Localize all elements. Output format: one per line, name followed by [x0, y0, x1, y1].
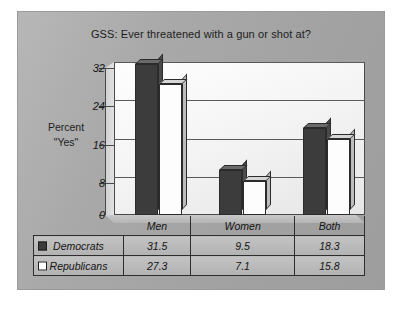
- legend-item-democrats: Democrats: [34, 236, 124, 256]
- table-row-categories: MenWomenBoth: [34, 216, 365, 236]
- y-axis-label-line1: Percent: [30, 120, 102, 135]
- category-label-women: Women: [191, 216, 294, 236]
- bar-face: [159, 84, 182, 215]
- bar-face: [135, 64, 158, 215]
- table-row: Republicans27.37.115.8: [34, 256, 365, 276]
- table-cell-republicans-men: 27.3: [124, 256, 191, 276]
- chart-screenshot: GSS: Ever threatened with a gun or shot …: [0, 0, 405, 310]
- bar-republicans-men: [159, 84, 182, 215]
- bar-side: [350, 129, 355, 210]
- bar-side: [182, 74, 187, 210]
- filled-square-icon: [38, 241, 47, 250]
- category-label-both: Both: [294, 216, 364, 236]
- table-cell-democrats-both: 18.3: [294, 236, 364, 256]
- y-axis-label: Percent "Yes": [30, 120, 102, 150]
- chart-title: GSS: Ever threatened with a gun or shot …: [18, 28, 384, 40]
- y-tick-mark-24: [99, 106, 105, 107]
- bar-democrats-men: [135, 64, 158, 215]
- table-row: Democrats31.59.518.3: [34, 236, 365, 256]
- bar-face: [243, 181, 266, 215]
- bar-republicans-both: [327, 139, 350, 215]
- y-tick-mark-8: [99, 183, 105, 184]
- depth-tick-16: [105, 145, 114, 146]
- depth-tick-24: [105, 106, 114, 107]
- bar-republicans-women: [243, 181, 266, 215]
- bar-democrats-women: [219, 170, 242, 215]
- table-cell-republicans-women: 7.1: [191, 256, 294, 276]
- legend-item-republicans: Republicans: [34, 256, 124, 276]
- y-tick-mark-16: [99, 145, 105, 146]
- y-axis-label-line2: "Yes": [30, 135, 102, 150]
- table-corner-cell: [34, 216, 124, 236]
- bar-face: [219, 170, 242, 215]
- table-cell-democrats-men: 31.5: [124, 236, 191, 256]
- open-square-icon: [38, 261, 47, 270]
- table-cell-democrats-women: 9.5: [191, 236, 294, 256]
- bar-face: [327, 139, 350, 215]
- category-label-men: Men: [124, 216, 191, 236]
- bar-face: [303, 128, 326, 215]
- chart-panel: GSS: Ever threatened with a gun or shot …: [18, 12, 384, 289]
- bar-democrats-both: [303, 128, 326, 215]
- y-tick-mark-32: [99, 68, 105, 69]
- depth-tick-32: [105, 68, 114, 69]
- plot-area: 08162432: [114, 62, 365, 215]
- plot-left-wall: [105, 62, 114, 215]
- data-table: MenWomenBothDemocrats31.59.518.3Republic…: [33, 216, 365, 276]
- table-cell-republicans-both: 15.8: [294, 256, 364, 276]
- depth-tick-8: [105, 183, 114, 184]
